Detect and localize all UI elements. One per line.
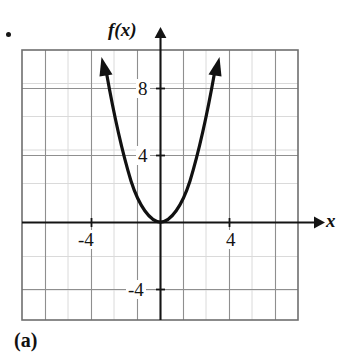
left-branch-arrow-icon: [100, 57, 113, 77]
x-axis: [22, 217, 325, 229]
y-tick-label-neg4: -4: [126, 280, 146, 299]
parabola-plot: [0, 0, 345, 360]
right-branch-arrow-icon: [209, 57, 222, 77]
panel-caption: (a): [14, 330, 37, 350]
x-tick-label-4: 4: [224, 230, 238, 249]
x-axis-label: x: [326, 211, 336, 230]
figure-container: f(x) x -4 4 8 4 -4 (a): [0, 0, 345, 360]
x-tick-label-neg4: -4: [76, 230, 96, 249]
y-tick-label-4: 4: [136, 146, 150, 165]
y-axis-label: f(x): [108, 20, 136, 39]
y-tick-label-8: 8: [136, 79, 150, 98]
y-axis: [155, 27, 167, 320]
